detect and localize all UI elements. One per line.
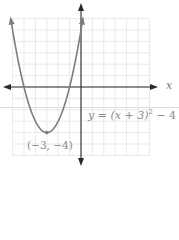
vertex-point bbox=[45, 131, 49, 135]
vertex-label: (−3, −4) bbox=[27, 139, 73, 151]
equation-text: y = (x + 3) bbox=[88, 109, 148, 122]
equation-label: y = (x + 3)2 − 4 bbox=[88, 108, 176, 122]
equation-tail: − 4 bbox=[153, 109, 176, 122]
x-axis-label: x bbox=[166, 79, 172, 92]
